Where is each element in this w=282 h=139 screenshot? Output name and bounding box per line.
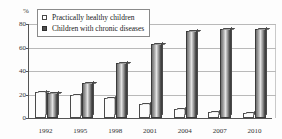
x-axis-label-2004: 2004 [167, 128, 202, 135]
x-axis-label-1995: 1995 [63, 128, 98, 135]
bar-slot [104, 24, 115, 118]
bar-healthy-1998 [104, 98, 115, 118]
legend-label-chronic: Children with chronic diseases [52, 25, 144, 33]
bar-slot [243, 24, 254, 118]
x-axis-label-1992: 1992 [28, 128, 63, 135]
bar-slot [186, 24, 197, 118]
bar-groups [29, 24, 272, 118]
bar-chronic-1998 [116, 63, 127, 118]
legend-label-healthy: Practically healthy children [52, 14, 134, 22]
bar-slot [208, 24, 219, 118]
bar-slot [174, 24, 185, 118]
x-axis-label-2010: 2010 [237, 128, 272, 135]
legend-item-chronic: Children with chronic diseases [42, 23, 144, 34]
bar-slot [255, 24, 266, 118]
bar-group [98, 24, 133, 118]
bar-group [29, 24, 64, 118]
bar-group [133, 24, 168, 118]
legend-item-healthy: Practically healthy children [42, 12, 144, 23]
plot-area: 020406080 [28, 24, 272, 119]
bar-slot [220, 24, 231, 118]
y-axis-unit-label: % [23, 8, 29, 15]
bar-chart: % 020406080 1992199519982001200420072010… [0, 0, 282, 139]
bar-chronic-2004 [186, 31, 197, 118]
x-axis-label-1998: 1998 [98, 128, 133, 135]
bar-group [64, 24, 99, 118]
bar-chronic-2007 [220, 29, 231, 118]
bar-slot [139, 24, 150, 118]
x-axis-labels: 1992199519982001200420072010 [28, 128, 272, 135]
bar-slot [47, 24, 58, 118]
bar-chronic-2001 [151, 44, 162, 118]
y-axis-label-20: 20 [19, 91, 26, 98]
bar-healthy-2004 [174, 109, 185, 118]
bar-slot [82, 24, 93, 118]
y-axis-label-40: 40 [19, 68, 26, 75]
x-axis-label-2001: 2001 [133, 128, 168, 135]
bar-slot [70, 24, 81, 118]
bar-slot [116, 24, 127, 118]
bar-group [168, 24, 203, 118]
bar-group [203, 24, 238, 118]
x-axis-label-2007: 2007 [202, 128, 237, 135]
bar-healthy-2007 [208, 112, 219, 118]
y-axis-label-80: 80 [19, 21, 26, 28]
bar-chronic-1992 [47, 93, 58, 118]
legend-swatch-filled-square-icon [42, 26, 47, 31]
bar-chronic-2010 [255, 29, 266, 118]
bar-healthy-1992 [35, 92, 46, 118]
bar-group [237, 24, 272, 118]
legend-swatch-hollow-square-icon [42, 15, 47, 20]
bar-chronic-1995 [82, 83, 93, 118]
y-axis-label-60: 60 [19, 44, 26, 51]
y-axis-label-0: 0 [23, 115, 27, 122]
bar-slot [35, 24, 46, 118]
bar-healthy-2010 [243, 113, 254, 118]
bar-healthy-2001 [139, 104, 150, 118]
bar-healthy-1995 [70, 95, 81, 119]
chart-legend: Practically healthy children Children wi… [37, 9, 150, 37]
bar-slot [151, 24, 162, 118]
